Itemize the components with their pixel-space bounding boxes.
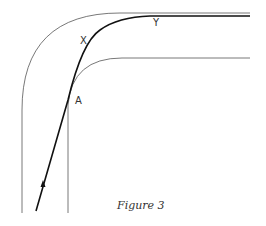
outer-road-edge bbox=[22, 13, 250, 213]
figure-caption: Figure 3 bbox=[117, 199, 165, 212]
inner-road-edge bbox=[68, 58, 250, 213]
label-x: X bbox=[80, 35, 87, 46]
figure: X Y A Figure 3 bbox=[0, 0, 266, 226]
label-y: Y bbox=[153, 17, 159, 28]
road-diagram bbox=[0, 0, 266, 226]
label-a: A bbox=[75, 95, 82, 106]
